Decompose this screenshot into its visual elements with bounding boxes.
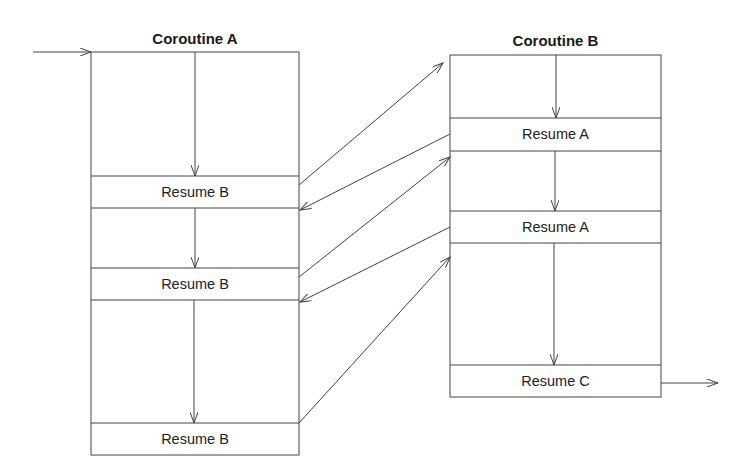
transfer-b2-to-a bbox=[300, 227, 450, 302]
coroutine-b-resume-c: Resume C bbox=[450, 365, 661, 397]
coroutine-b-resume-a-2: Resume A bbox=[450, 211, 661, 243]
transfer-a2-to-b bbox=[299, 157, 450, 277]
coroutine-b-flow-arrows bbox=[554, 55, 556, 365]
transfer-arrows bbox=[299, 63, 450, 423]
coroutine-a-title: Coroutine A bbox=[91, 30, 299, 47]
transfer-a1-to-b bbox=[299, 63, 443, 185]
coroutine-b-title: Coroutine B bbox=[450, 32, 661, 49]
coroutine-a-resume-b-1: Resume B bbox=[91, 176, 299, 208]
coroutine-a-resume-b-2: Resume B bbox=[91, 268, 299, 300]
transfer-b1-to-a bbox=[300, 134, 450, 210]
transfer-a3-to-b bbox=[299, 257, 450, 423]
coroutine-a-resume-b-3: Resume B bbox=[91, 423, 299, 455]
coroutine-b-resume-a-1: Resume A bbox=[450, 118, 661, 150]
coroutine-a-flow-arrows bbox=[194, 52, 195, 423]
